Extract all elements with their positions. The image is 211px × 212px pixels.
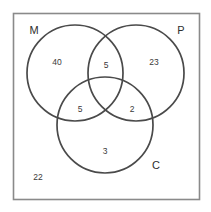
venn-diagram-canvas: M P C 40 5 23 5 2 3 22 (0, 0, 211, 212)
region-count-m-and-p: 5 (104, 60, 109, 70)
region-count-m-and-c: 5 (78, 104, 83, 114)
set-label-p: P (177, 24, 184, 36)
region-count-p-and-c: 2 (130, 104, 135, 114)
region-count-p-only: 23 (149, 57, 159, 67)
region-count-m-only: 40 (52, 57, 62, 67)
region-count-outside: 22 (33, 172, 43, 182)
set-label-m: M (29, 24, 38, 36)
venn-diagram-figure: M P C 40 5 23 5 2 3 22 (0, 0, 211, 212)
set-circle-m (27, 25, 123, 121)
set-circle-c (57, 77, 153, 173)
region-count-c-only: 3 (103, 146, 108, 156)
set-circle-p (88, 25, 184, 121)
set-label-c: C (152, 159, 160, 171)
